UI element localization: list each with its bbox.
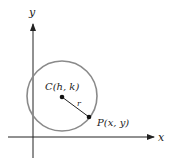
radius-label: r xyxy=(77,99,82,108)
radius-segment xyxy=(62,97,89,117)
point-label: P(x, y) xyxy=(96,117,129,128)
point-p xyxy=(87,115,92,120)
circle-diagram: x y C(h, k) r P(x, y) xyxy=(0,0,173,167)
center-point xyxy=(60,95,65,100)
y-axis-label: y xyxy=(28,6,36,19)
center-label: C(h, k) xyxy=(45,81,79,92)
x-axis-label: x xyxy=(158,131,165,144)
